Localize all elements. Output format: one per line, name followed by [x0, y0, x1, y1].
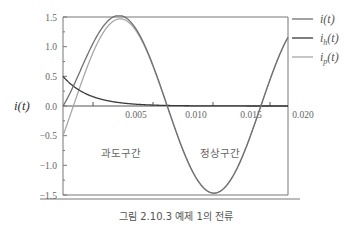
y-tick-label: 0.0	[45, 102, 57, 112]
legend-item-i: i(t)	[292, 12, 335, 26]
y-tick-label: 1.0	[45, 42, 57, 52]
legend: i(t) ih(t) ip(t)	[292, 12, 339, 66]
series-curves	[63, 16, 288, 193]
x-tick-labels: 0.0050.0100.0150.020	[125, 110, 314, 120]
y-tick-label: 1.5	[45, 13, 57, 23]
y-tick-label: 0.5	[45, 72, 57, 82]
legend-item-ih: ih(t)	[292, 31, 339, 47]
x-tick-label: 0.005	[125, 110, 147, 120]
y-tick-labels: 1.51.00.50.0−0.5−1.0−1.5	[40, 13, 57, 201]
region-transient-label: 과도구간	[101, 147, 141, 159]
y-axis-label: i(t)	[14, 98, 30, 113]
region-steady-label: 정상구간	[200, 147, 240, 159]
x-tick-label: 0.020	[292, 110, 314, 120]
curve-i	[63, 16, 288, 193]
y-tick-label: −1.0	[40, 161, 57, 171]
figure-caption: 그림 2.10.3 예제 1의 전류	[0, 208, 352, 223]
y-tick-label: −0.5	[40, 131, 57, 141]
curve-ih	[63, 76, 288, 106]
legend-label-ip: ip(t)	[320, 50, 339, 66]
x-tick-label: 0.010	[185, 110, 207, 120]
legend-label-ih: ih(t)	[320, 31, 339, 47]
legend-label-i: i(t)	[320, 12, 335, 26]
current-chart: 1.51.00.50.0−0.5−1.0−1.5 0.0050.0100.015…	[0, 0, 352, 228]
legend-item-ip: ip(t)	[292, 50, 339, 66]
